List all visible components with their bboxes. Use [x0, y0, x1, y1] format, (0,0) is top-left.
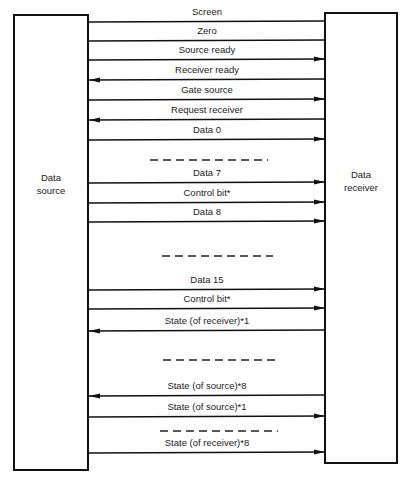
arrow-right-icon	[314, 57, 325, 62]
signal-label: Gate source	[181, 84, 233, 95]
signal-line	[89, 289, 325, 290]
arrow-right-icon	[314, 287, 325, 292]
arrow-right-icon	[314, 97, 325, 102]
signal-line	[89, 21, 325, 22]
arrow-right-icon	[314, 450, 325, 455]
signal-label: Control bit*	[184, 187, 231, 198]
signal-label: Data 8	[193, 206, 221, 217]
signal-label: Request receiver	[171, 104, 243, 115]
signal-line	[89, 139, 325, 140]
signal-label: Data 7	[193, 167, 221, 178]
signal-line	[89, 119, 325, 120]
signal-label: Receiver ready	[175, 64, 239, 75]
signal-line	[89, 221, 325, 222]
signal-label: Screen	[192, 6, 222, 17]
signal-line	[89, 452, 325, 453]
arrow-left-icon	[89, 329, 100, 334]
signal-label: Control bit*	[184, 293, 231, 304]
signal-line	[89, 40, 325, 41]
arrow-right-icon	[314, 414, 325, 419]
signal-line	[89, 202, 325, 203]
signal-label: State (of source)*1	[167, 401, 246, 412]
diagram-canvas: Data source Data receiver ScreenZeroSour…	[0, 0, 414, 482]
signal-line	[89, 330, 325, 331]
signal-label: State (of receiver)*8	[165, 437, 249, 448]
arrow-right-icon	[314, 219, 325, 224]
signal-label: Data 15	[190, 274, 223, 285]
arrow-left-icon	[89, 118, 100, 123]
signal-line	[89, 395, 325, 396]
signal-line	[89, 308, 325, 309]
arrow-left-icon	[89, 394, 100, 399]
arrow-right-icon	[314, 306, 325, 311]
arrow-right-icon	[314, 137, 325, 142]
arrow-right-icon	[314, 200, 325, 205]
arrow-left-icon	[89, 78, 100, 83]
signal-label: Zero	[197, 25, 217, 36]
signal-line	[89, 182, 325, 183]
signal-line	[89, 79, 325, 80]
signal-label: Data 0	[193, 124, 221, 135]
signal-label: Source ready	[179, 44, 236, 55]
signal-line	[89, 416, 325, 417]
arrow-right-icon	[314, 180, 325, 185]
signal-line	[89, 59, 325, 60]
signal-label: State (of source)*8	[167, 380, 246, 391]
signal-label: State (of receiver)*1	[165, 315, 249, 326]
signal-line	[89, 99, 325, 100]
